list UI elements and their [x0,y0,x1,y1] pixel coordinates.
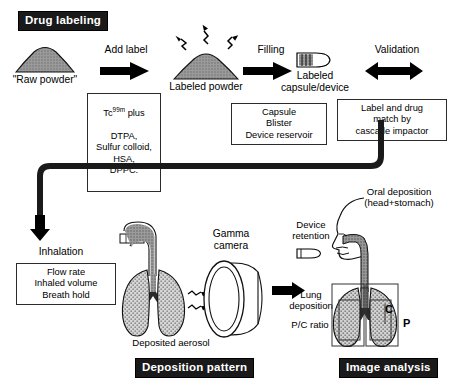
arrow-add-label-icon [100,62,150,80]
radiolabel-prefix: Tc [103,108,112,118]
labeled-powder-pile-icon [172,50,240,81]
banner-drug-labeling: Drug labeling [18,11,108,31]
radiolabel-suffix: plus [125,108,145,118]
device-retention-capsule-icon [296,247,322,260]
radiolabel-superscript: 99m [113,106,125,113]
gamma-camera-label: Gamma camera [198,228,264,252]
labeled-capsule-label: Labeled capsule/device [275,70,355,94]
banner-deposition-pattern: Deposition pattern [135,358,254,378]
roi-label-central: C [385,303,393,315]
figure-canvas: Drug labeling "Raw powder" Add label [0,0,450,389]
box-inhalation-parameters: Flow rate Inhaled volume Breath hold [16,263,116,305]
inhalation-label: Inhalation [19,246,103,258]
arrow-validation-bidirectional-icon [365,62,423,80]
raw-powder-label: "Raw powder" [2,74,88,86]
step-filling: Filling [238,44,304,56]
roi-label-peripheral: P [403,317,410,329]
banner-image-analysis: Image analysis [339,358,438,378]
step-validation: Validation [355,44,439,56]
step-add-label: Add label [91,44,161,56]
labeled-powder-label: Labeled powder [150,81,262,93]
raw-powder-pile-icon [14,44,76,74]
labeled-capsule-icon [296,51,332,69]
gamma-camera-icon [202,258,274,340]
arrow-inhalation-icon [30,215,50,241]
image-analysis-anatomy-figure [330,196,450,356]
